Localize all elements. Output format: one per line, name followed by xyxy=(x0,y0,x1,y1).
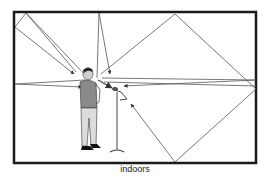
ray-top-left-diagonal xyxy=(26,13,76,72)
ray-diamond-bottom xyxy=(131,89,256,162)
ray-right-wall-1 xyxy=(102,78,256,86)
ray-diamond-top xyxy=(101,14,256,89)
ray-right-wall-2 xyxy=(104,82,256,86)
sound-rays xyxy=(15,13,256,162)
room-walls xyxy=(14,12,256,163)
sound-reflection-diagram xyxy=(0,0,270,182)
ray-direct xyxy=(98,80,112,88)
microphone-stand-icon xyxy=(110,88,127,153)
ray-top-left-corner xyxy=(15,13,90,80)
caption-label: indoors xyxy=(0,164,270,174)
ray-left-wall xyxy=(15,80,85,87)
